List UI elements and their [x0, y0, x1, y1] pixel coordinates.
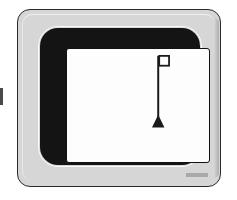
left-edge-tick-mark: [0, 88, 3, 105]
monitor-illustration: [0, 0, 237, 200]
crt-bezel: [40, 28, 200, 165]
crt-screen[interactable]: [66, 48, 210, 163]
brand-badge: [186, 173, 208, 177]
flag-marker-icon: [67, 49, 209, 162]
monitor-case: [17, 9, 221, 187]
case-shadow-edge: [214, 18, 219, 178]
